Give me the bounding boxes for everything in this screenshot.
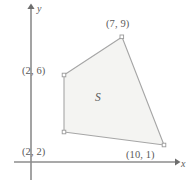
x-axis-label: x: [181, 159, 185, 169]
vertex-label-10-1: (10, 1): [126, 150, 155, 161]
y-axis-arrow-icon: [27, 4, 34, 10]
vertex-label-2-2: (2, 2): [22, 147, 45, 158]
region-polygon-S: [64, 37, 164, 145]
vertex-marker-7-9: [120, 35, 124, 39]
vertex-label-2-6: (2, 6): [22, 66, 45, 77]
region-label-S: S: [95, 92, 101, 104]
figure-coordinate-plane: (7, 9) (2, 6) (2, 2) (10, 1) S y x: [0, 0, 193, 190]
vertex-label-7-9: (7, 9): [106, 19, 129, 30]
vertex-marker-2-2: [62, 130, 66, 134]
vertex-marker-10-1: [162, 143, 166, 147]
x-axis-arrow-icon: [175, 158, 181, 165]
vertex-marker-2-6: [62, 73, 66, 77]
y-axis-label: y: [37, 4, 41, 14]
